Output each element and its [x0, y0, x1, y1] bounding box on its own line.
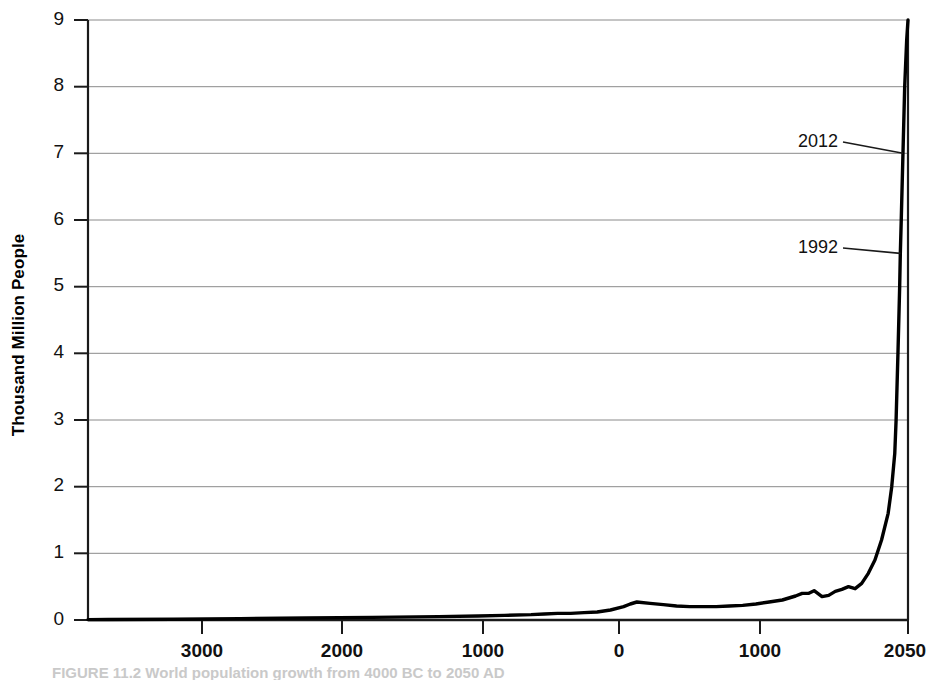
x-tick-label-1000ad: 1000	[739, 640, 781, 662]
x-tick-label-2050ad: 2050	[884, 640, 926, 662]
y-tick-label-3: 3	[34, 408, 64, 430]
x-tick-label-0: 0	[614, 640, 625, 662]
y-tick-label-5: 5	[34, 274, 64, 296]
y-tick-label-9: 9	[34, 8, 64, 30]
plot-frame	[88, 20, 908, 620]
x-tick-label-3000bc: 3000	[181, 640, 223, 662]
annotation-label-1992: 1992	[798, 237, 838, 258]
y-tick-label-4: 4	[34, 341, 64, 363]
y-tick-label-1: 1	[34, 541, 64, 563]
y-tick-label-7: 7	[34, 141, 64, 163]
y-axis-title: Thousand Million People	[9, 234, 29, 437]
y-axis-title-container: Thousand Million People	[6, 185, 32, 485]
y-tick-label-2: 2	[34, 474, 64, 496]
population-curve	[88, 20, 908, 620]
x-axis-ticks	[202, 620, 908, 634]
y-axis-ticks	[74, 20, 88, 620]
y-tick-label-8: 8	[34, 74, 64, 96]
y-tick-label-0: 0	[34, 608, 64, 630]
y-tick-label-6: 6	[34, 208, 64, 230]
annotation-label-2012: 2012	[798, 131, 838, 152]
x-tick-label-1000bc: 1000	[462, 640, 504, 662]
figure-caption: FIGURE 11.2 World population growth from…	[52, 664, 505, 680]
x-tick-label-2000bc: 2000	[321, 640, 363, 662]
gridlines	[88, 20, 908, 553]
annotation-leaders	[843, 142, 903, 253]
